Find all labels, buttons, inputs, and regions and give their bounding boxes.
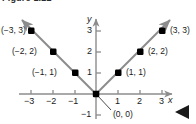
- point-label-3-3: (3, 3): [170, 26, 190, 35]
- point-label-0-0: (0, 0): [113, 110, 133, 119]
- data-point-3-3: [159, 28, 166, 35]
- point-label-neg2-2: (−2, 2): [12, 47, 37, 56]
- x-axis-label: x: [168, 96, 173, 105]
- data-point-neg3-3: [28, 28, 35, 35]
- origin-leader-line: [97, 95, 111, 110]
- x-tick-label-neg1: −1: [68, 97, 78, 106]
- y-tick-label-2: 2: [87, 47, 92, 56]
- y-tick-label-1: 1: [87, 68, 92, 77]
- x-tick-label-2: 2: [137, 97, 142, 106]
- y-tick-label-neg1: −1: [81, 110, 91, 119]
- data-point-neg2-2: [50, 49, 57, 56]
- y-tick-label-3: 3: [87, 26, 92, 35]
- data-point-1-1: [115, 70, 122, 77]
- point-label-1-1: (1, 1): [126, 68, 146, 77]
- end-of-section-triangle-icon: [175, 105, 189, 119]
- curve-right-branch: [96, 20, 170, 94]
- data-point-2-2: [137, 49, 144, 56]
- data-point-0-0: [93, 91, 100, 98]
- point-label-neg3-3: (−3, 3): [1, 26, 26, 35]
- point-label-2-2: (2, 2): [148, 47, 168, 56]
- data-points: [28, 28, 166, 98]
- x-tick-label-neg3: −3: [24, 97, 34, 106]
- x-tick-label-3: 3: [159, 97, 164, 106]
- figure-container: Figure 1.22: [0, 0, 196, 124]
- x-tick-label-neg2: −2: [46, 97, 56, 106]
- y-axis-label: y: [87, 15, 92, 24]
- point-label-neg1-1: (−1, 1): [32, 68, 57, 77]
- data-point-neg1-1: [72, 70, 79, 77]
- y-axis: [96, 19, 101, 119]
- x-tick-label-1: 1: [115, 97, 120, 106]
